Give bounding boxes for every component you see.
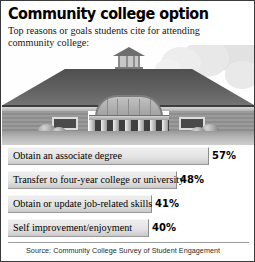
page-title: Community college option	[8, 5, 208, 23]
cloud-icon	[225, 61, 255, 89]
bar-value-label: 40%	[152, 219, 176, 237]
infographic-panel: Community college option Top reasons or …	[0, 0, 255, 262]
bar-category-label: Obtain an associate degree	[13, 147, 122, 165]
bar-category-label: Obtain or update job-related skills	[13, 195, 152, 213]
bar-value-label: 48%	[180, 171, 204, 189]
header: Community college option Top reasons or …	[1, 1, 255, 53]
bar-row: Self improvement/enjoyment 40%	[1, 219, 255, 237]
subtitle: Top reasons or goals students cite for a…	[8, 25, 213, 48]
bar-row: Obtain an associate degree 57%	[1, 147, 255, 165]
bar-category-label: Transfer to four-year college or univers…	[13, 171, 184, 189]
ground	[2, 131, 255, 145]
bar-chart: Obtain an associate degree 57% Transfer …	[1, 147, 255, 243]
community-college-building-photo	[2, 45, 255, 145]
source-divider	[8, 242, 249, 243]
bar-value-label: 41%	[155, 195, 179, 213]
bar-row: Transfer to four-year college or univers…	[1, 171, 255, 189]
bar-value-label: 57%	[212, 147, 236, 165]
bar-row: Obtain or update job-related skills 41%	[1, 195, 255, 213]
bar-category-label: Self improvement/enjoyment	[13, 219, 132, 237]
source-note: Source: Community College Survey of Stud…	[26, 246, 220, 255]
